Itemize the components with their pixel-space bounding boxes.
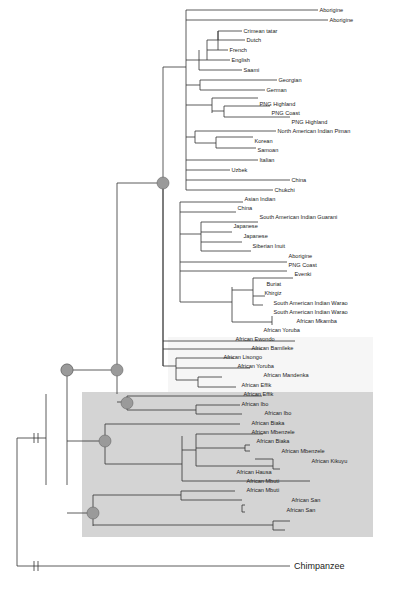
leaf-label: African Yoruba — [238, 363, 275, 369]
gray-node-marker — [61, 364, 73, 376]
leaf-label: African Ibo — [242, 401, 269, 407]
gray-node-marker — [111, 364, 123, 376]
phylogenetic-tree: AborigineAborigineCrimean tatarDutchFren… — [0, 0, 393, 608]
leaf-label: Siberian Inuit — [253, 243, 286, 249]
leaf-label: African Hausa — [237, 469, 273, 475]
leaf-label: African Mkamba — [297, 318, 338, 324]
leaf-label: Buriat — [267, 281, 282, 287]
leaf-label: PNG Highland — [260, 101, 296, 107]
leaf-label: China — [238, 205, 254, 211]
leaf-label: Khirgiz — [265, 290, 282, 296]
leaf-label: German — [267, 87, 287, 93]
leaf-label: Crimean tatar — [244, 28, 278, 34]
leaf-label: African Bamileke — [252, 345, 294, 351]
outgroup-label: Chimpanzee — [294, 561, 345, 571]
leaf-label: Saami — [244, 67, 260, 73]
leaf-label: Georgian — [279, 77, 302, 83]
leaf-label: PNG Coast — [272, 110, 301, 116]
gray-node-marker — [99, 435, 111, 447]
gray-node-marker — [87, 507, 99, 519]
leaf-label: South American Indian Warao — [274, 300, 348, 306]
leaf-label: Aborigine — [330, 17, 354, 23]
leaf-label: Uzbek — [232, 167, 248, 173]
leaf-label: African San — [287, 507, 316, 513]
leaf-label: Evenki — [295, 271, 312, 277]
leaf-label: South American Indian Warao — [274, 309, 348, 315]
leaf-label: African Mbenzele — [282, 448, 325, 454]
leaf-label: Italian — [260, 157, 275, 163]
leaf-label: French — [230, 47, 247, 53]
leaf-label: African Biaka — [257, 438, 291, 444]
leaf-label: African Lisongo — [224, 354, 263, 360]
leaf-label: Japanese — [244, 233, 268, 239]
leaf-label: PNG Highland — [292, 119, 328, 125]
leaf-label: Dutch — [247, 37, 262, 43]
gray-node-marker — [121, 397, 133, 409]
leaf-label: African Mandenka — [264, 372, 310, 378]
leaf-label: Korean — [255, 138, 273, 144]
leaf-label: African Effik — [244, 391, 274, 397]
gray-node-marker — [157, 177, 169, 189]
leaf-label: African Ewondo — [236, 336, 275, 342]
leaf-label: English — [232, 57, 250, 63]
leaf-label: Japanese — [234, 223, 258, 229]
leaf-label: Aborigine — [289, 253, 313, 259]
leaf-label: African Mbuti — [247, 478, 280, 484]
leaf-label: African San — [292, 497, 321, 503]
leaf-label: Asian Indian — [245, 196, 276, 202]
leaf-label: African Mbenzele — [252, 429, 295, 435]
leaf-label: African Ibo — [265, 410, 292, 416]
leaf-label: North American Indian Piman — [278, 128, 351, 134]
leaf-label: Samoan — [258, 147, 279, 153]
leaf-label: African Biaka — [252, 420, 286, 426]
leaf-label: Aborigine — [320, 7, 344, 13]
leaf-label: African Kikuyu — [312, 458, 348, 464]
leaf-label: South American Indian Guarani — [260, 214, 338, 220]
leaf-label: Chukchi — [275, 187, 295, 193]
leaf-label: African Mbuti — [247, 487, 280, 493]
leaf-label: African Yoruba — [264, 327, 301, 333]
leaf-label: African Effik — [242, 382, 272, 388]
leaf-label: PNG Coast — [289, 262, 318, 268]
leaf-label: China — [292, 177, 308, 183]
